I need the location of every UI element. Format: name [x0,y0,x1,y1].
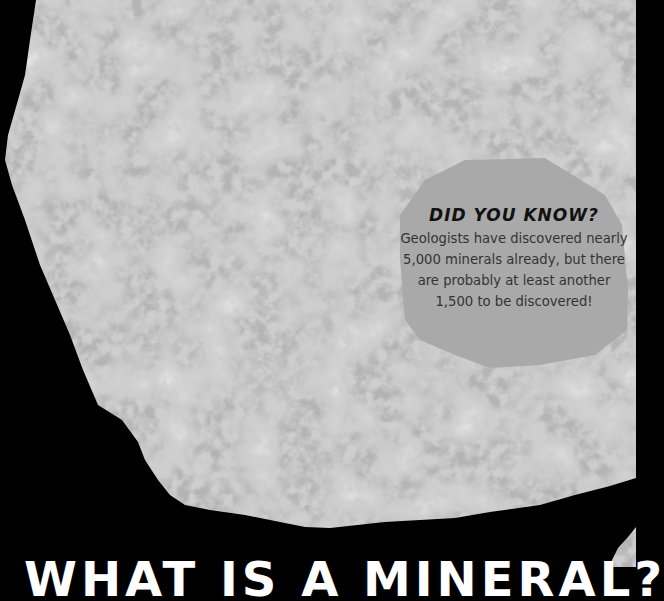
did-you-know-callout: DID YOU KNOW? Geologists have discovered… [398,205,630,312]
callout-line: Geologists have discovered nearly [398,228,630,249]
callout-line: are probably at least another [398,270,630,291]
callout-body: Geologists have discovered nearly 5,000 … [398,228,630,312]
callout-line: 5,000 minerals already, but there [398,249,630,270]
callout-line: 1,500 to be discovered! [398,291,630,312]
section-heading: WHAT IS A MINERAL? [24,555,664,601]
callout-title: DID YOU KNOW? [398,205,630,225]
